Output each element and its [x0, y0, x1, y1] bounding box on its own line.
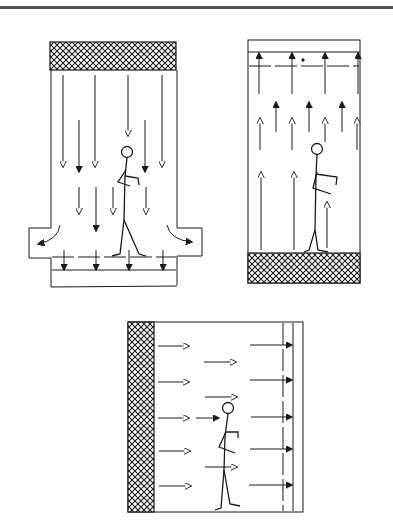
particle-dot: [302, 59, 304, 61]
bottom-edge: [51, 286, 177, 287]
figure: [0, 0, 393, 532]
figure-svg: [0, 0, 393, 532]
panel-crossflow: [128, 322, 303, 512]
person-figure: [112, 147, 146, 257]
top-rule: [0, 6, 393, 9]
filter-wall: [128, 322, 154, 512]
upflow-frame: [248, 40, 360, 283]
panel-downflow: [29, 42, 202, 287]
person-figure: [304, 144, 337, 253]
filter-ceiling: [50, 42, 176, 70]
panel-upflow: [248, 40, 360, 283]
person-figure: [215, 403, 240, 511]
filter-floor: [248, 253, 360, 283]
left-return-box: [29, 228, 51, 258]
